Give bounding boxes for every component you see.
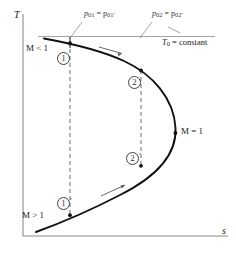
state-point-markers xyxy=(68,41,177,217)
leader-line-t0 xyxy=(168,27,180,33)
label-p02-eq: = p xyxy=(163,9,176,18)
prime-mark-2: ′ xyxy=(139,152,141,161)
y-axis-label: T xyxy=(14,10,20,20)
state-point-2 xyxy=(139,69,143,73)
label-p01: p01 = p01′ xyxy=(84,10,115,19)
label-p01-eq: = p xyxy=(95,9,108,18)
x-axis-label: s xyxy=(222,226,226,236)
label-p02-sub-b: 02′ xyxy=(175,11,183,18)
state-marker-1: 1 xyxy=(57,52,70,65)
state-point-2-prime xyxy=(139,164,143,168)
label-p02: p02 = p02′ xyxy=(152,10,183,19)
state-point-sonic xyxy=(174,131,178,135)
label-p01-sub-b: 01′ xyxy=(107,11,115,18)
label-supersonic-branch: M > 1 xyxy=(22,211,44,220)
state-marker-1-prime: 1 xyxy=(57,197,70,210)
state-marker-2: 2 xyxy=(128,76,141,89)
label-t0-constant: T0 = constant xyxy=(162,38,207,48)
leader-line-p01 xyxy=(70,22,82,38)
prime-mark-1: ′ xyxy=(70,197,72,206)
state-marker-2-prime: 2 xyxy=(126,152,139,165)
fanno-line-figure: T s p01 = p01′ p02 = p02′ T0 = constant … xyxy=(0,0,236,254)
label-sonic-point: M = 1 xyxy=(181,127,203,136)
leader-line-p02 xyxy=(140,22,152,38)
state-point-1-prime xyxy=(68,213,72,217)
label-t0-rest: = constant xyxy=(170,37,207,47)
label-subsonic-branch: M < 1 xyxy=(26,44,48,53)
